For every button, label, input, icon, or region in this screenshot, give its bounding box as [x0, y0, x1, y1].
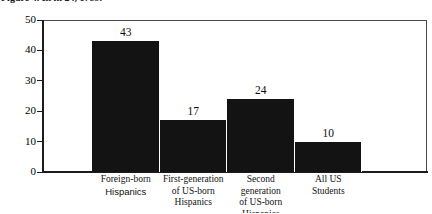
bar-value-label: 43: [92, 26, 160, 38]
bar-value-label: 17: [160, 105, 228, 117]
bar-value-label: 10: [295, 127, 363, 139]
bar: [92, 41, 160, 172]
category-label-line: Students: [283, 186, 375, 198]
category-label-line: of US-born: [215, 197, 307, 209]
x-axis-category-label: All USStudents: [283, 174, 375, 197]
bar: [227, 99, 295, 172]
category-label-line: Hispanics: [215, 209, 307, 214]
bar: [160, 120, 228, 172]
bar-value-label: 24: [227, 84, 295, 96]
chart-figure: Figure 4. In in 24, 1789. 01020304050 43…: [0, 0, 432, 213]
bar: [295, 142, 363, 172]
category-label-line: All US: [283, 174, 375, 186]
x-axis-category-labels: Foreign-bornHispanicsFirst-generationof …: [0, 174, 432, 213]
